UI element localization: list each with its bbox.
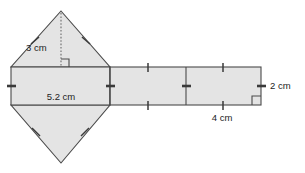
label-rectangle-width: 4 cm [212, 112, 233, 123]
label-triangle-height: 3 cm [26, 42, 47, 53]
label-rectangle-height: 2 cm [270, 80, 291, 91]
label-base-width: 5.2 cm [47, 91, 76, 102]
geometry-figure: 3 cm 5.2 cm 4 cm 2 cm [0, 0, 305, 173]
bottom-triangle [11, 105, 110, 163]
net-diagram-svg: 3 cm 5.2 cm 4 cm 2 cm [0, 0, 305, 173]
